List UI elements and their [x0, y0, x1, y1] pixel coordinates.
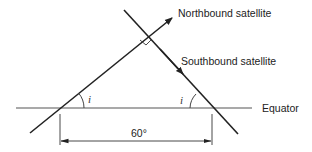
satellite-inclination-diagram: i i 60° Northbound satellite Southbound …: [0, 0, 312, 152]
angle-label-left: i: [88, 93, 91, 105]
separation-label: 60°: [131, 127, 147, 139]
southbound-arrow-icon: [160, 49, 183, 74]
northbound-label: Northbound satellite: [178, 7, 272, 19]
equator-label: Equator: [262, 102, 299, 114]
angle-arc-left-icon: [79, 93, 85, 108]
angle-label-right: i: [180, 94, 183, 106]
southbound-label: Southbound satellite: [181, 55, 276, 67]
angle-arc-right-icon: [190, 94, 196, 108]
northbound-track: [30, 18, 172, 133]
